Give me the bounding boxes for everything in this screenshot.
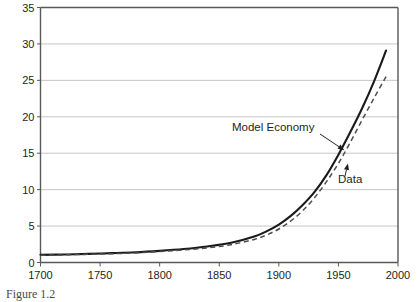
series-line-data <box>41 77 387 256</box>
gridlines-group <box>41 8 399 227</box>
tickmarks-group <box>37 8 398 267</box>
ytick-label-0: 0 <box>28 257 34 269</box>
ytick-label-10: 10 <box>22 184 34 196</box>
annotation-label-data: Data <box>338 173 363 185</box>
ytick-label-20: 20 <box>22 111 34 123</box>
series-line-model-economy <box>41 50 387 254</box>
annotation-leader-model-economy <box>320 134 339 147</box>
xtick-label-1950: 1950 <box>326 269 350 281</box>
xtick-label-1850: 1850 <box>207 269 231 281</box>
xtick-label-1700: 1700 <box>28 269 52 281</box>
xtick-label-2000: 2000 <box>386 269 410 281</box>
ytick-label-30: 30 <box>22 38 34 50</box>
xtick-label-1800: 1800 <box>147 269 171 281</box>
ytick-label-15: 15 <box>22 147 34 159</box>
ytick-label-35: 35 <box>22 2 34 14</box>
xtick-label-1750: 1750 <box>88 269 112 281</box>
y-axis-tick-labels: 05101520253035 <box>22 2 34 269</box>
axis-spine <box>41 8 399 263</box>
figure-caption: Figure 1.2 <box>6 287 55 302</box>
ytick-label-25: 25 <box>22 74 34 86</box>
x-axis-tick-labels: 1700175018001850190019502000 <box>28 269 410 281</box>
annotation-arrowhead-data <box>344 163 349 170</box>
xtick-label-1900: 1900 <box>267 269 291 281</box>
ytick-label-5: 5 <box>28 220 34 232</box>
annotation-label-model-economy: Model Economy <box>232 121 315 133</box>
